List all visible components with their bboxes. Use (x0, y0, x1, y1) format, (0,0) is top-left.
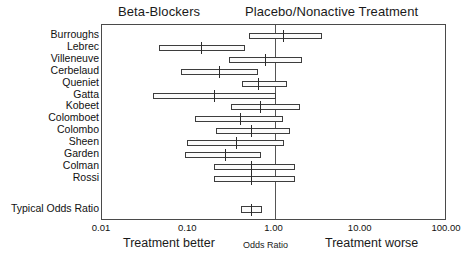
x-tick-label: 0.10 (178, 222, 197, 233)
confidence-interval-bar (159, 45, 244, 51)
study-label: Burroughs (1, 29, 99, 39)
point-estimate-marker (283, 30, 284, 42)
study-label: Sheen (1, 136, 99, 146)
axis-caption-treatment-better: Treatment better (123, 236, 215, 250)
confidence-interval-row (102, 55, 445, 66)
forest-plot: Beta-Blockers Placebo/Nonactive Treatmen… (0, 0, 468, 267)
x-tick-label: 100.00 (431, 222, 460, 233)
point-estimate-marker (260, 101, 261, 113)
confidence-interval-row (102, 67, 445, 78)
study-label-column: BurroughsLebrecVilleneuveCerbelaudQuenie… (0, 24, 99, 220)
study-label: Lebrec (1, 41, 99, 51)
confidence-interval-bar (214, 164, 295, 170)
confidence-interval-bar (231, 104, 301, 110)
confidence-interval-bar (195, 116, 283, 122)
confidence-interval-bar (185, 152, 261, 158)
study-label: Cerbelaud (1, 65, 99, 75)
confidence-interval-row (102, 150, 445, 161)
confidence-interval-row (102, 102, 445, 113)
group-header-right: Placebo/Nonactive Treatment (245, 4, 418, 19)
point-estimate-marker (258, 78, 259, 90)
study-label: Villeneuve (1, 53, 99, 63)
x-tick-label: 10.00 (348, 222, 372, 233)
point-estimate-marker (201, 42, 202, 54)
group-header-left: Beta-Blockers (118, 4, 200, 19)
point-estimate-marker (236, 137, 237, 149)
point-estimate-marker (251, 173, 252, 185)
point-estimate-marker (251, 161, 252, 173)
confidence-interval-row (102, 43, 445, 54)
plot-area (101, 24, 446, 220)
point-estimate-marker (225, 149, 226, 161)
confidence-interval-row (102, 91, 445, 102)
point-estimate-marker (251, 204, 252, 216)
study-label: Queniet (1, 77, 99, 87)
summary-row-label: Typical Odds Ratio (1, 203, 99, 213)
confidence-interval-row (102, 126, 445, 137)
summary-interval-row (102, 205, 445, 216)
confidence-interval-row (102, 31, 445, 42)
study-label: Colomboet (1, 112, 99, 122)
x-tick-label: 1.00 (264, 222, 283, 233)
study-label: Colombo (1, 124, 99, 134)
confidence-interval-bar (242, 81, 287, 87)
x-tick-label: 0.01 (92, 222, 111, 233)
confidence-interval-row (102, 174, 445, 185)
study-label: Gatta (1, 89, 99, 99)
confidence-interval-row (102, 162, 445, 173)
x-axis-ticks: 0.010.101.0010.00100.00 (101, 220, 446, 236)
confidence-interval-row (102, 114, 445, 125)
point-estimate-marker (240, 113, 241, 125)
study-label: Colman (1, 160, 99, 170)
study-label: Kobeet (1, 100, 99, 110)
study-label: Garden (1, 148, 99, 158)
confidence-interval-bar (214, 176, 295, 182)
point-estimate-marker (265, 54, 266, 66)
confidence-interval-bar (249, 33, 323, 39)
point-estimate-marker (214, 90, 215, 102)
confidence-interval-row (102, 79, 445, 90)
confidence-interval-row (102, 138, 445, 149)
confidence-interval-bar (216, 128, 290, 134)
point-estimate-marker (219, 66, 220, 78)
study-label: Rossi (1, 172, 99, 182)
axis-caption-treatment-worse: Treatment worse (325, 236, 418, 250)
axis-caption-odds-ratio: Odds Ratio (243, 240, 288, 250)
point-estimate-marker (251, 125, 252, 137)
